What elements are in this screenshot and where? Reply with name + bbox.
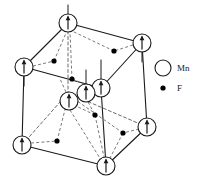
mn-atom-top-right — [133, 34, 151, 52]
bond-botleft-to-f6 — [31, 141, 57, 143]
mn-atom-bot-left — [13, 136, 31, 154]
mn-atom-inner-left — [60, 92, 78, 110]
bond-innerleft-to-botfront — [70, 110, 101, 160]
edge-vert-front — [101, 88, 106, 166]
mn-atom-body-center — [77, 84, 95, 102]
legend: Mn F — [155, 60, 190, 93]
f-atom-top-upper-right — [111, 48, 116, 53]
bond-topleft-to-f1 — [33, 61, 54, 66]
legend-f-label: F — [177, 83, 182, 93]
bond-f4-to-innerleft — [76, 106, 95, 115]
mn-atom-top-left — [15, 58, 33, 76]
f-atom-top-upper-left — [51, 58, 56, 63]
bond-f5-to-botfront — [110, 133, 123, 158]
mn-f-bonds-top — [33, 31, 133, 88]
mn-atoms-group — [13, 14, 156, 175]
f-atom-bottom-left — [54, 138, 59, 143]
center-atom-stubs — [24, 5, 142, 86]
edge-top-back-to-top-right — [68, 23, 142, 43]
crystal-structure-diagram: Mn F — [0, 0, 198, 186]
f-atom-inner-lower — [92, 112, 97, 117]
mn-atom-bot-right — [138, 118, 156, 136]
mn-atom-top-back — [59, 14, 77, 32]
edge-bot-left-to-bot-front — [22, 145, 106, 166]
bond-topright-to-f2 — [114, 45, 133, 51]
edge-vert-right — [142, 43, 147, 127]
bond-f1-to-topback — [54, 33, 66, 61]
f-atom-top-mid — [69, 76, 74, 81]
legend-mn-label: Mn — [177, 63, 190, 73]
mn-atom-bot-front — [97, 157, 115, 175]
bond-f3-to-topback — [70, 32, 72, 79]
crystal-structure-figure: Mn F — [0, 0, 198, 186]
legend-f-dot-icon — [160, 85, 165, 90]
legend-mn-circle-icon — [155, 60, 171, 76]
f-atom-bottom-mid — [120, 130, 125, 135]
bond-innerleft-up — [60, 79, 66, 92]
